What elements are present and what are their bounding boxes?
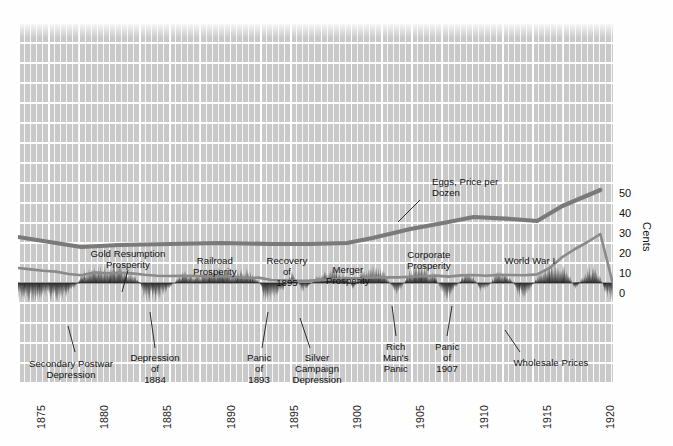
cycle-expansion-area [492, 271, 514, 283]
x-tick-1910: 1910 [478, 405, 490, 429]
cycle-contraction-area [439, 283, 459, 301]
y-tick-0: 0 [619, 287, 625, 299]
x-tick-1890: 1890 [225, 405, 237, 429]
cycle-contraction-area [390, 283, 404, 295]
cycle-contraction-area [572, 283, 579, 289]
leader-silver-campaign [300, 318, 310, 348]
annotation-corporate: Corporate Prosperity [407, 249, 451, 271]
cycle-contraction-area [514, 283, 534, 298]
annotation-silver-campaign: Silver Campaign Depression [293, 352, 342, 386]
x-tick-1915: 1915 [541, 405, 553, 429]
y-tick-20: 20 [619, 247, 631, 259]
x-tick-1895: 1895 [288, 405, 300, 429]
annotation-world-war-i: World War I [505, 255, 556, 266]
y-axis-label: Cents [641, 222, 653, 252]
chart-figure: 1875188018851890189519001905191019151920… [0, 0, 673, 446]
leader-eggs-label [398, 200, 420, 222]
annotation-gold-resumption: Gold Resumption Prosperity [91, 248, 166, 270]
y-tick-10: 10 [619, 267, 631, 279]
eggs-price-line [18, 190, 600, 247]
leader-rich-mans-panic [392, 306, 396, 336]
y-tick-50: 50 [619, 187, 631, 199]
x-tick-1885: 1885 [161, 405, 173, 429]
leader-depression-1884 [150, 312, 155, 348]
x-tick-1920: 1920 [604, 405, 616, 429]
cycle-contraction-area [141, 283, 175, 303]
annotation-secondary-postwar: Secondary Postwar Depression [29, 358, 113, 380]
x-tick-1905: 1905 [414, 405, 426, 429]
annotation-eggs-label: Eggs, Price per Dozen [432, 176, 498, 198]
annotation-rich-mans-panic: Rich Man's Panic [383, 341, 409, 375]
cycle-contraction-area [602, 283, 612, 301]
leader-panic-1893 [262, 312, 268, 348]
annotation-depression-1884: Depression of 1884 [131, 352, 180, 386]
annotation-panic-1907: Panic of 1907 [435, 341, 459, 375]
leader-panic-1907 [447, 306, 452, 336]
cycle-contraction-area [478, 283, 491, 292]
annotation-recovery-1895: Recovery of 1895 [267, 255, 308, 289]
leader-wholesale-label [505, 330, 520, 352]
y-tick-40: 40 [619, 207, 631, 219]
annotation-panic-1893: Panic of 1893 [247, 352, 271, 386]
x-tick-1880: 1880 [98, 405, 110, 429]
x-tick-1900: 1900 [351, 405, 363, 429]
x-tick-1875: 1875 [35, 405, 47, 429]
leader-secondary-postwar [68, 326, 75, 352]
annotation-merger: Merger Prosperity [326, 264, 370, 286]
annotation-railroad: Railroad Prosperity [193, 255, 237, 277]
annotation-wholesale-label: Wholesale Prices [514, 357, 589, 368]
cycle-contraction-area [18, 283, 78, 304]
y-tick-30: 30 [619, 227, 631, 239]
